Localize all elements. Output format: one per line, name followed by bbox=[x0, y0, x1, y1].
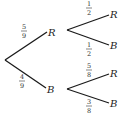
svg-text:1: 1 bbox=[87, 41, 91, 49]
prob-label-root-B: 4 9 bbox=[19, 73, 25, 90]
svg-text:9: 9 bbox=[22, 32, 26, 40]
svg-text:8: 8 bbox=[87, 107, 91, 115]
probability-tree: 5 9 4 9 R B 1 2 1 2 5 8 3 8 R B R B bbox=[0, 0, 121, 117]
svg-text:2: 2 bbox=[87, 50, 91, 58]
node-R-R: R bbox=[109, 9, 118, 20]
prob-label-B-B: 3 8 bbox=[86, 98, 92, 115]
svg-text:1: 1 bbox=[87, 0, 91, 8]
prob-label-root-R: 5 9 bbox=[21, 23, 27, 40]
node-B-B: B bbox=[109, 98, 117, 109]
svg-text:4: 4 bbox=[20, 73, 24, 81]
node-R-B: B bbox=[109, 40, 117, 51]
node-R: R bbox=[47, 27, 56, 38]
svg-text:5: 5 bbox=[22, 23, 26, 31]
edge-R-to-R bbox=[67, 15, 109, 30]
node-B: B bbox=[46, 84, 54, 95]
svg-text:8: 8 bbox=[87, 71, 91, 79]
svg-text:9: 9 bbox=[20, 82, 24, 90]
svg-text:3: 3 bbox=[87, 98, 91, 106]
prob-label-B-R: 5 8 bbox=[86, 62, 92, 79]
prob-label-R-B: 1 2 bbox=[86, 41, 92, 58]
edge-root-to-B bbox=[5, 60, 46, 88]
svg-text:2: 2 bbox=[87, 9, 91, 17]
prob-label-R-R: 1 2 bbox=[86, 0, 92, 17]
svg-text:5: 5 bbox=[87, 62, 91, 70]
node-B-R: R bbox=[109, 68, 118, 79]
